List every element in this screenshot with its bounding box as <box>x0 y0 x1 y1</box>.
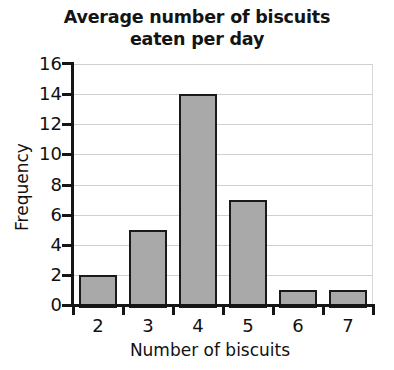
x-tick-label-3: 3 <box>123 316 173 336</box>
x-tick-1 <box>122 305 125 315</box>
bar-chart: Average number of biscuits eaten per day… <box>0 0 394 370</box>
plot-area <box>73 64 373 305</box>
x-tick-4 <box>272 305 275 315</box>
y-tick-4 <box>62 244 73 247</box>
y-tick-8 <box>62 184 73 187</box>
gridline-14 <box>73 94 373 95</box>
y-tick-6 <box>62 214 73 217</box>
y-tick-label-0: 0 <box>18 296 62 314</box>
x-tick-5 <box>322 305 325 315</box>
y-tick-label-16: 16 <box>18 55 62 73</box>
x-tick-label-6: 6 <box>273 316 323 336</box>
x-tick-label-2: 2 <box>73 316 123 336</box>
y-axis-title: Frequency <box>13 97 31 277</box>
gridline-4 <box>73 245 373 246</box>
chart-title: Average number of biscuits eaten per day <box>0 6 394 50</box>
x-axis-title: Number of biscuits <box>40 340 380 360</box>
x-tick-3 <box>222 305 225 315</box>
gridline-12 <box>73 124 373 125</box>
x-tick-label-7: 7 <box>323 316 373 336</box>
bar-5[interactable] <box>229 200 267 308</box>
bar-3[interactable] <box>129 230 167 308</box>
x-tick-0 <box>72 305 75 315</box>
y-tick-12 <box>62 123 73 126</box>
gridline-16 <box>73 64 373 65</box>
y-tick-16 <box>62 62 73 65</box>
x-tick-6 <box>372 305 375 315</box>
y-tick-2 <box>62 274 73 277</box>
y-tick-10 <box>62 153 73 156</box>
bar-4[interactable] <box>179 94 217 308</box>
x-tick-label-5: 5 <box>223 316 273 336</box>
gridline-6 <box>73 215 373 216</box>
x-tick-2 <box>172 305 175 315</box>
gridline-10 <box>73 154 373 155</box>
gridline-8 <box>73 185 373 186</box>
y-tick-14 <box>62 93 73 96</box>
gridline-2 <box>73 275 373 276</box>
x-tick-label-4: 4 <box>173 316 223 336</box>
